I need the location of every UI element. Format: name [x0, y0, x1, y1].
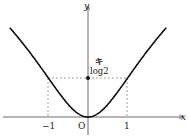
origin-label: O [78, 121, 85, 131]
plot-svg: y x O −1 1 log2 キ [0, 0, 189, 140]
log2-label: log2 [90, 66, 109, 76]
tick-label-neg1: −1 [42, 121, 55, 131]
y-axis-label: y [83, 1, 90, 11]
tick-label-pos1: 1 [124, 121, 130, 131]
x-axis-label: x [181, 112, 186, 122]
graph: y x O −1 1 log2 キ [0, 0, 189, 140]
guide-lines [48, 78, 127, 117]
log2-point [86, 76, 90, 80]
annotation-ki: キ [95, 56, 103, 66]
